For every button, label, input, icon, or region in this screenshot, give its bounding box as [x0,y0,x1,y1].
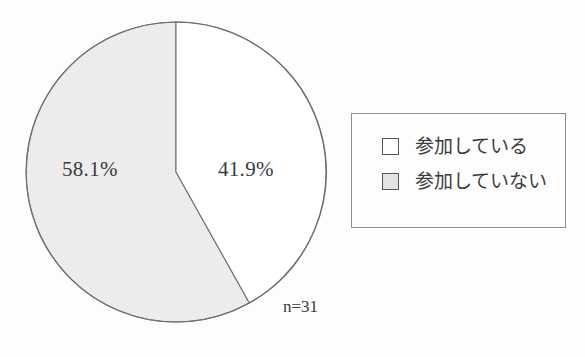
slice-value-label-not-participating: 58.1% [62,157,118,182]
legend-item-not-participating[interactable]: 参加していない [382,172,547,191]
legend-label-not-participating: 参加していない [415,172,547,191]
sample-size-annotation: n=31 [283,297,318,317]
legend-swatch-participating-icon [382,138,399,155]
chart-page: 58.1% 41.9% n=31 参加している 参加していない [0,0,585,357]
slice-value-label-participating: 41.9% [218,157,274,182]
legend-swatch-not-participating-icon [382,173,399,190]
chart-legend: 参加している 参加していない [351,113,566,228]
legend-label-participating: 参加している [415,137,528,156]
legend-item-participating[interactable]: 参加している [382,137,528,156]
